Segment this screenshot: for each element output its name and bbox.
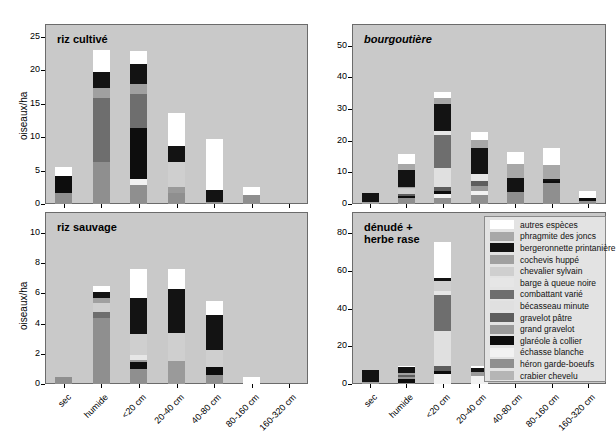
x-tick-mark [406,204,407,208]
bar-segment [398,377,415,380]
legend-swatch [490,371,514,380]
bar-segment [434,198,451,204]
legend-label: cochevis huppé [520,255,579,265]
x-tick-mark [588,384,589,388]
y-tick-mark [348,233,352,234]
bar-segment [168,333,185,362]
bar-segment [434,131,451,135]
x-tick-mark [406,384,407,388]
legend-label: grand gravelot [520,324,574,334]
bar-segment [398,198,415,204]
y-tick-mark [348,204,352,205]
stacked-bar [130,269,147,384]
legend-swatch [490,313,514,322]
bar-segment [471,181,488,186]
legend-label: barge à queue noire [520,278,596,288]
x-tick-mark [588,204,589,208]
bar-segment [398,189,415,194]
bar-segment [168,162,185,187]
bar-segment [543,165,560,179]
legend-label: glaréole à collier [520,336,582,346]
bar-segment [434,295,451,332]
x-tick-mark [64,384,65,388]
bar-segment [471,148,488,173]
bar-segment [434,242,451,278]
bar-segment [55,193,72,204]
y-tick-mark [348,346,352,347]
bar-segment [130,185,147,204]
bar-segment [398,375,415,377]
y-tick-mark [348,141,352,142]
legend-item: bécasseau minute [485,300,605,312]
bar-segment [434,371,451,373]
y-tick-label: 0 [321,198,347,208]
bar-segment [579,201,596,204]
bar-segment [362,370,379,382]
legend-swatch [490,359,514,368]
stacked-bar [398,366,415,384]
bar-segment [398,170,415,187]
bar-segment [434,291,451,294]
bar-segment [206,375,223,384]
y-tick-label: 50 [321,40,347,50]
panel-title-denude-herbe-rase: dénudé + herbe rase [364,221,420,245]
legend-item: chevalier sylvain [485,265,605,277]
x-tick-mark [552,204,553,208]
bar-segment [362,193,379,202]
bar-segment [206,190,223,202]
y-tick-label: 4 [14,318,40,328]
stacked-bar [507,152,524,204]
bar-segment [206,367,223,375]
stacked-bar [168,269,185,384]
x-tick-mark [177,204,178,208]
stacked-bar [434,92,451,204]
bar-segment [434,281,451,292]
bar-segment [130,84,147,94]
panel-title-bourgoutiere: bourgoutière [364,33,432,45]
y-tick-label: 0 [14,378,40,388]
y-tick-label: 15 [14,98,40,108]
y-tick-label: 10 [321,166,347,176]
y-tick-mark [41,354,45,355]
legend-swatch [490,290,514,299]
bar-segment [93,286,110,292]
bar-segment [471,186,488,191]
bar-segment [168,193,185,204]
legend-label: autres espèces [520,220,578,230]
x-tick-mark [139,204,140,208]
bar-segment [130,94,147,128]
y-tick-label: 80 [321,227,347,237]
stacked-bar [130,51,147,204]
bar-segment [130,362,147,369]
bar-segment [93,72,110,88]
bar-segment [206,139,223,190]
bar-segment [93,298,110,303]
bar-segment [243,187,260,194]
y-tick-mark [41,293,45,294]
bar-segment [398,187,415,189]
bar-segment [471,191,488,195]
bar-segment [543,181,560,183]
stacked-bar [93,286,110,384]
x-tick-mark [252,384,253,388]
bar-segment [130,369,147,384]
legend-label: gravelot pâtre [520,313,572,323]
bar-segment [398,196,415,198]
bar-segment [206,202,223,204]
bar-segment [168,113,185,146]
y-tick-label: 20 [14,64,40,74]
y-tick-mark [41,104,45,105]
stacked-bar [579,191,596,204]
y-tick-label: 25 [14,31,40,41]
bar-segment [434,135,451,168]
bar-segment [168,361,185,384]
bar-segment [398,154,415,163]
legend-label: bergeronnette printanière [520,243,615,253]
y-tick-mark [41,171,45,172]
y-tick-mark [348,46,352,47]
x-tick-mark [139,384,140,388]
y-tick-label: 2 [14,348,40,358]
stacked-bar [93,50,110,204]
x-tick-mark [370,204,371,208]
bar-segment [130,128,147,179]
